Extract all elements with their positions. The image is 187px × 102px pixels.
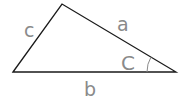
angle-c-arc — [147, 57, 151, 72]
triangle — [13, 4, 176, 72]
side-c-label: c — [24, 19, 34, 41]
side-a-label: a — [117, 13, 129, 35]
side-b-label: b — [84, 78, 96, 100]
angle-c-label: C — [121, 51, 135, 75]
triangle-diagram: c a C b — [0, 0, 187, 102]
